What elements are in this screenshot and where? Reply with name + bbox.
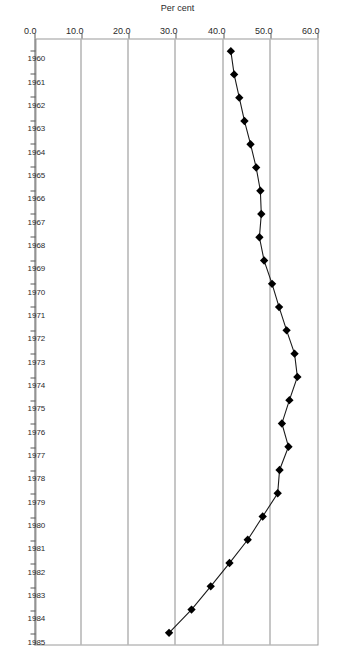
data-point-1966 xyxy=(256,186,264,194)
y-tick-label-wrap: 60.0 xyxy=(317,0,318,31)
x-tick-label-1978: 1978 xyxy=(27,473,45,482)
y-tick-label-40-0: 40.0 xyxy=(207,26,225,36)
x-tick-1961 xyxy=(30,73,35,74)
x-tick-label-1973: 1973 xyxy=(27,357,45,366)
x-tick-label-1960: 1960 xyxy=(27,53,45,62)
x-tick-label-1966: 1966 xyxy=(27,193,45,202)
data-point-1972 xyxy=(282,326,290,334)
x-tick-label-1969: 1969 xyxy=(27,263,45,272)
x-tick-1962 xyxy=(30,96,35,97)
x-tick-1965 xyxy=(30,166,35,167)
data-point-1963 xyxy=(240,116,248,124)
x-tick-label-1974: 1974 xyxy=(27,380,45,389)
x-tick-label-1963: 1963 xyxy=(27,123,45,132)
y-tick-label-wrap: 40.0 xyxy=(223,0,224,31)
data-point-1979 xyxy=(273,489,281,497)
x-tick-label-1975: 1975 xyxy=(27,403,45,412)
data-point-1965 xyxy=(251,163,259,171)
x-tick-label-1972: 1972 xyxy=(27,333,45,342)
x-tick-1979 xyxy=(30,493,35,494)
data-point-1970 xyxy=(267,279,275,287)
x-tick-label-1967: 1967 xyxy=(27,217,45,226)
data-point-1971 xyxy=(274,302,282,310)
x-tick-label-1970: 1970 xyxy=(27,287,45,296)
x-tick-label-1976: 1976 xyxy=(27,427,45,436)
data-point-1967 xyxy=(257,209,265,217)
x-tick-1960 xyxy=(30,50,35,51)
x-tick-label-1965: 1965 xyxy=(27,170,45,179)
series-line-chart xyxy=(36,39,317,644)
x-tick-1973 xyxy=(30,353,35,354)
x-tick-1972 xyxy=(30,330,35,331)
x-tick-1966 xyxy=(30,190,35,191)
x-tick-1967 xyxy=(30,213,35,214)
x-tick-label-1984: 1984 xyxy=(27,613,45,622)
x-tick-label-1971: 1971 xyxy=(27,310,45,319)
chart-figure: 1960196119621963196419651966196719681969… xyxy=(0,0,353,651)
x-tick-1976 xyxy=(30,423,35,424)
x-tick-1985 xyxy=(30,633,35,634)
data-point-1974 xyxy=(293,372,301,380)
x-tick-1982 xyxy=(30,563,35,564)
x-tick-1971 xyxy=(30,306,35,307)
data-point-1973 xyxy=(290,349,298,357)
data-point-1964 xyxy=(246,140,254,148)
x-tick-label-1979: 1979 xyxy=(27,497,45,506)
series-markers xyxy=(164,46,301,636)
x-tick-label-1962: 1962 xyxy=(27,100,45,109)
y-tick-label-30-0: 30.0 xyxy=(160,26,178,36)
y-tick-label-wrap: 50.0 xyxy=(270,0,271,31)
x-tick-1977 xyxy=(30,447,35,448)
y-tick-label-wrap: 20.0 xyxy=(128,0,129,31)
x-tick-label-1980: 1980 xyxy=(27,520,45,529)
data-point-1968 xyxy=(255,233,263,241)
series-path xyxy=(169,51,297,633)
x-tick-label-1964: 1964 xyxy=(27,147,45,156)
x-tick-1981 xyxy=(30,540,35,541)
x-tick-1968 xyxy=(30,236,35,237)
data-point-1960 xyxy=(226,46,234,54)
x-tick-label-1981: 1981 xyxy=(27,543,45,552)
y-tick-label-wrap: 10.0 xyxy=(81,0,82,31)
y-tick-label-50-0: 50.0 xyxy=(254,26,272,36)
data-point-1976 xyxy=(277,419,285,427)
data-point-1985 xyxy=(164,628,172,636)
y-tick-label-10-0: 10.0 xyxy=(66,26,84,36)
y-tick-label-wrap: 0.0 xyxy=(34,0,35,31)
y-tick-label-20-0: 20.0 xyxy=(113,26,131,36)
x-tick-1970 xyxy=(30,283,35,284)
x-tick-1969 xyxy=(30,260,35,261)
x-tick-1984 xyxy=(30,610,35,611)
plot-area xyxy=(35,38,318,645)
x-tick-label-1985: 1985 xyxy=(27,637,45,646)
x-tick-1963 xyxy=(30,120,35,121)
x-tick-1978 xyxy=(30,470,35,471)
data-point-1978 xyxy=(275,465,283,473)
rotated-figure-container: 1960196119621963196419651966196719681969… xyxy=(0,0,353,651)
x-tick-label-1983: 1983 xyxy=(27,590,45,599)
data-point-1969 xyxy=(259,256,267,264)
x-tick-1964 xyxy=(30,143,35,144)
data-point-1977 xyxy=(284,442,292,450)
data-point-1962 xyxy=(235,93,243,101)
chart-page: 1960196119621963196419651966196719681969… xyxy=(0,0,353,651)
y-tick-label-60-0: 60.0 xyxy=(301,26,319,36)
data-point-1961 xyxy=(229,70,237,78)
x-tick-label-1968: 1968 xyxy=(27,240,45,249)
x-tick-1975 xyxy=(30,400,35,401)
x-tick-label-1961: 1961 xyxy=(27,77,45,86)
x-tick-1974 xyxy=(30,377,35,378)
x-tick-1983 xyxy=(30,587,35,588)
y-axis-title: Per cent xyxy=(160,2,194,12)
data-point-1975 xyxy=(285,395,293,403)
x-tick-label-1977: 1977 xyxy=(27,450,45,459)
x-tick-label-1982: 1982 xyxy=(27,567,45,576)
y-tick-label-0-0: 0.0 xyxy=(23,26,36,36)
x-tick-1980 xyxy=(30,517,35,518)
